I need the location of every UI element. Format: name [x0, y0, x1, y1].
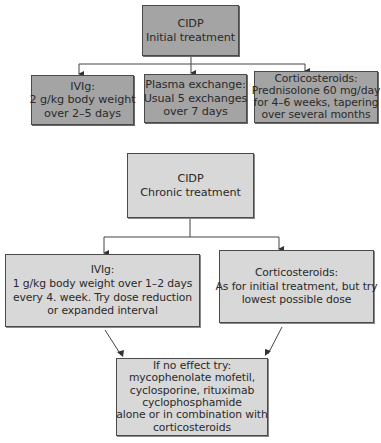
- box-line: Plasma exchange:: [145, 78, 245, 92]
- box-line: over 2–5 days: [44, 107, 121, 121]
- chronic-corticosteroids-box: Corticosteroids: As for initial treatmen…: [219, 250, 374, 323]
- box-line: As for initial treatment, but try: [216, 280, 378, 294]
- title-line: CIDP: [177, 17, 203, 31]
- initial-treatment-title-box: CIDP Initial treatment: [142, 5, 239, 56]
- title-line: Chronic treatment: [140, 186, 240, 200]
- chronic-ivig-box: IVIg: 1 g/kg body weight over 1–2 days e…: [5, 254, 200, 327]
- box-line: IVIg:: [70, 80, 95, 94]
- box-line: mycophenolate mofetil,: [129, 372, 255, 384]
- box-line: lowest possible dose: [242, 293, 352, 307]
- box-line: 2 g/kg body weight: [30, 93, 136, 107]
- chronic-treatment-title-box: CIDP Chronic treatment: [127, 153, 254, 218]
- box-line: IVIg:: [91, 263, 115, 277]
- title-line: Initial treatment: [146, 31, 235, 45]
- box-line: over 7 days: [163, 105, 228, 119]
- box-line: alone or in combination with: [116, 409, 267, 421]
- initial-ivig-box: IVIg: 2 g/kg body weight over 2–5 days: [31, 75, 134, 125]
- initial-plasma-exchange-box: Plasma exchange: Usual 5 exchanges over …: [144, 74, 247, 123]
- initial-corticosteroids-box: Corticosteroids: Prednisolone 60 mg/day …: [254, 71, 378, 123]
- box-line: or expanded interval: [47, 304, 158, 318]
- box-line: 1 g/kg body weight over 1–2 days: [13, 277, 193, 291]
- box-line: corticosteroids: [153, 422, 231, 434]
- box-line: every 4. week. Try dose reduction: [13, 291, 192, 305]
- box-line: Corticosteroids:: [255, 266, 338, 280]
- chronic-fallback-box: If no effect try: mycophenolate mofetil,…: [116, 358, 268, 436]
- box-line: Usual 5 exchanges: [144, 92, 248, 106]
- box-line: over several months: [261, 109, 370, 121]
- title-line: CIDP: [177, 172, 203, 186]
